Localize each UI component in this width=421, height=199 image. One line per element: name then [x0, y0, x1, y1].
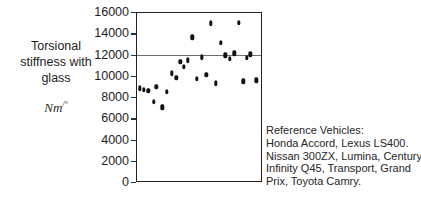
data-point — [241, 78, 244, 84]
reference-vehicles-note: Reference Vehicles: Honda Accord, Lexus … — [266, 124, 418, 188]
data-point — [219, 40, 222, 46]
data-point — [249, 52, 252, 58]
data-point — [182, 64, 185, 70]
y-axis-units-superscript: /° — [62, 100, 67, 109]
data-point — [186, 57, 189, 63]
reference-note-line-4: Infinity Q45, Transport, Grand — [266, 162, 418, 175]
reference-note-line-3: Nissan 300ZX, Lumina, Century, — [266, 150, 418, 163]
reference-note-line-5: Prix, Toyota Camry. — [266, 175, 418, 188]
data-point — [146, 88, 149, 94]
y-axis-tick-label: 0 — [122, 176, 129, 189]
y-axis-tick-label: 10000 — [94, 70, 129, 83]
y-axis-tick-label: 2000 — [101, 155, 129, 168]
data-point — [233, 51, 236, 57]
y-axis-tick-label: 14000 — [94, 27, 129, 40]
reference-line — [137, 55, 261, 56]
data-point — [160, 104, 163, 110]
reference-note-line-2: Honda Accord, Lexus LS400. — [266, 137, 418, 150]
y-axis-label-line-2: stiffness with — [8, 54, 104, 70]
data-point — [200, 54, 203, 60]
data-point — [237, 20, 240, 26]
data-point — [214, 80, 217, 86]
plot-area — [136, 12, 262, 182]
data-point — [175, 75, 178, 81]
data-point — [223, 52, 226, 58]
data-point — [138, 85, 141, 91]
y-axis-label-line-3: glass — [8, 70, 104, 86]
data-point — [205, 72, 208, 78]
y-axis-units: Nm/° — [8, 100, 104, 116]
plot-inner — [137, 13, 261, 181]
y-axis-tick — [131, 182, 136, 183]
y-axis-label-line-1: Torsional — [8, 38, 104, 54]
y-axis: 0200040006000800010000120001400016000 — [96, 12, 136, 182]
y-axis-tick-label: 16000 — [94, 6, 129, 19]
data-point — [152, 99, 155, 105]
y-axis-tick-label: 8000 — [101, 91, 129, 104]
data-point — [195, 76, 198, 82]
data-point — [255, 78, 258, 84]
data-point — [245, 55, 248, 61]
y-axis-tick-label: 12000 — [94, 48, 129, 61]
y-axis-tick-label: 4000 — [101, 133, 129, 146]
y-axis-tick-label: 6000 — [101, 112, 129, 125]
chart-figure: Torsional stiffness with glass Nm/° 0200… — [0, 0, 421, 199]
data-point — [142, 87, 145, 93]
data-point — [165, 89, 168, 95]
y-axis-units-base: Nm — [44, 100, 62, 115]
y-axis-label: Torsional stiffness with glass — [8, 38, 104, 86]
data-point — [170, 70, 173, 76]
data-point — [191, 35, 194, 41]
data-point — [209, 20, 212, 26]
data-point — [228, 56, 231, 62]
data-point — [155, 84, 158, 90]
reference-note-line-1: Reference Vehicles: — [266, 124, 418, 137]
